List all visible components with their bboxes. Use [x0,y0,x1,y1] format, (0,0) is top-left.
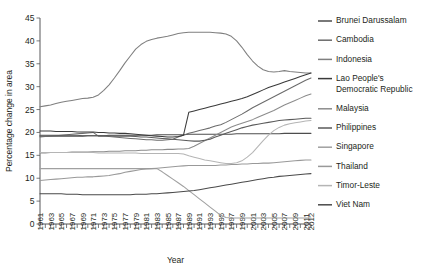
x-axis-tick-label: 1985 [164,212,173,230]
x-axis-tick-label: 1991 [195,212,204,230]
plot-axes [40,18,311,224]
x-axis-tick-label: 1971 [89,212,98,230]
legend-label-9[interactable]: Viet Nam [336,199,370,209]
x-axis-tick-label: 2012 [307,212,316,230]
legend-label-2[interactable]: Indonesia [336,54,372,64]
series-line-timor-leste [40,121,311,164]
x-axis-tick-label: 1995 [217,212,226,230]
y-axis-tick-label: 0 [30,219,35,229]
legend-label-4[interactable]: Malaysia [336,103,369,113]
x-axis-title: Year [167,255,184,265]
series-line-indonesia [40,32,311,107]
x-axis-tick-label: 1975 [110,212,119,230]
x-axis-tick-label: 2007 [280,212,289,230]
legend-label-5[interactable]: Philippines [336,122,376,132]
x-axis-tick-label: 1981 [142,212,151,230]
y-axis-tick-label: 5 [30,196,35,206]
y-axis-tick-label: 20 [25,127,35,137]
series-line-lao-people-s-democratic-republic [40,73,311,137]
x-axis-tick-label: 1973 [100,212,109,230]
y-axis-tick-label: 40 [25,36,35,46]
x-axis-tick-label: 1987 [174,212,183,230]
x-axis-tick-label: 1965 [57,212,66,230]
legend-label-8[interactable]: Timor-Leste [336,180,380,190]
y-axis-tick-label: 45 [25,13,35,23]
x-axis-tick-label: 2001 [249,212,258,230]
x-axis-tick-label: 1961 [36,212,45,230]
x-axis-tick-label: 1993 [206,212,215,230]
legend-label-3-line2[interactable]: Democratic Republic [336,84,413,94]
x-axis-tick-label: 1963 [47,212,56,230]
y-axis-tick-label: 10 [25,173,35,183]
line-chart: 051015202530354045Percentage change in a… [0,0,430,271]
x-axis-tick-label: 2009 [291,212,300,230]
legend-label-6[interactable]: Singapore [336,141,374,151]
x-axis-tick-label: 2003 [259,212,268,230]
y-axis-title: Percentage change in area [4,70,14,172]
series-line-singapore [40,169,311,218]
x-axis-tick-label: 1983 [153,212,162,230]
x-axis-tick-label: 1997 [227,212,236,230]
y-axis-tick-label: 25 [25,105,35,115]
legend-label-0[interactable]: Brunei Darussalam [336,15,407,25]
x-axis-tick-label: 1999 [238,212,247,230]
y-axis-tick-label: 15 [25,150,35,160]
x-axis-tick-label: 1979 [132,212,141,230]
legend-label-3[interactable]: Lao People's [336,73,384,83]
legend-label-1[interactable]: Cambodia [336,34,374,44]
legend-label-7[interactable]: Thailand [336,161,368,171]
x-axis-tick-label: 1967 [68,212,77,230]
x-axis-tick-label: 1969 [79,212,88,230]
x-axis-tick-label: 1989 [185,212,194,230]
x-axis-tick-label: 1977 [121,212,130,230]
series-line-malaysia [40,94,311,153]
y-axis-tick-label: 35 [25,59,35,69]
chart-container: 051015202530354045Percentage change in a… [0,0,430,271]
x-axis-tick-label: 2005 [270,212,279,230]
y-axis-tick-label: 30 [25,82,35,92]
